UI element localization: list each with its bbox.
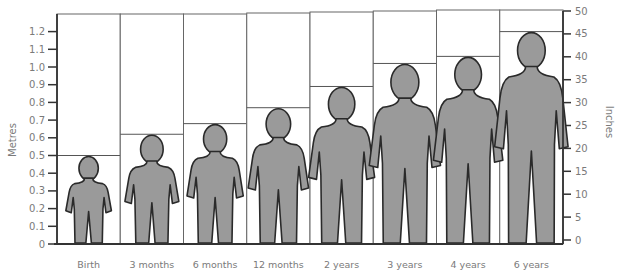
left-tick-label: 0.3 (29, 185, 45, 196)
right-tick-label: 50 (575, 6, 588, 17)
category-label: 6 years (514, 259, 549, 270)
right-tick-label: 25 (575, 120, 588, 131)
left-tick-label: 0.2 (29, 203, 45, 214)
left-tick-label: 1.2 (29, 26, 45, 37)
figure-head (79, 157, 98, 181)
right-tick-label: 10 (575, 189, 588, 200)
category-label: 12 months (253, 259, 304, 270)
left-tick-label: 0.6 (29, 132, 45, 143)
left-tick-label: 1.0 (29, 62, 45, 73)
figure-head (391, 64, 419, 100)
category-label: 6 months (193, 259, 238, 270)
right-tick-label: 5 (575, 212, 581, 223)
figure-head (518, 33, 546, 69)
figure-head (455, 57, 482, 91)
figure-head (328, 87, 354, 120)
right-tick-label: 0 (575, 235, 581, 246)
left-tick-label: 0.9 (29, 79, 45, 90)
figure-head (266, 109, 291, 140)
figure-head (141, 135, 164, 163)
category-labels: Birth3 months6 months12 months2 years3 y… (77, 259, 549, 270)
category-label: 3 months (129, 259, 174, 270)
left-tick-label: 0.4 (29, 168, 45, 179)
y-axis-title-right: Inches (604, 106, 615, 139)
y-axis-title-left: Metres (7, 123, 18, 157)
right-tick-label: 20 (575, 143, 588, 154)
left-tick-label: 0.7 (29, 115, 45, 126)
left-tick-label: 0 (39, 239, 45, 250)
right-tick-label: 15 (575, 166, 588, 177)
figure-head (204, 125, 227, 154)
left-tick-label: 0.8 (29, 97, 45, 108)
left-tick-label: 0.1 (29, 221, 45, 232)
right-tick-label: 40 (575, 51, 588, 62)
right-axis-ticks: 05101520253035404550 (563, 6, 588, 246)
left-axis-ticks: 00.10.20.30.40.50.60.70.80.91.01.11.2 (29, 26, 57, 249)
right-tick-label: 30 (575, 97, 588, 108)
right-tick-label: 35 (575, 74, 588, 85)
left-tick-label: 1.1 (29, 44, 45, 55)
right-tick-label: 45 (575, 28, 588, 39)
left-tick-label: 0.5 (29, 150, 45, 161)
category-label: 3 years (387, 259, 422, 270)
category-label: 4 years (451, 259, 486, 270)
category-label: Birth (77, 259, 100, 270)
height-chart: 00.10.20.30.40.50.60.70.80.91.01.11.2 05… (0, 0, 623, 277)
category-label: 2 years (324, 259, 359, 270)
